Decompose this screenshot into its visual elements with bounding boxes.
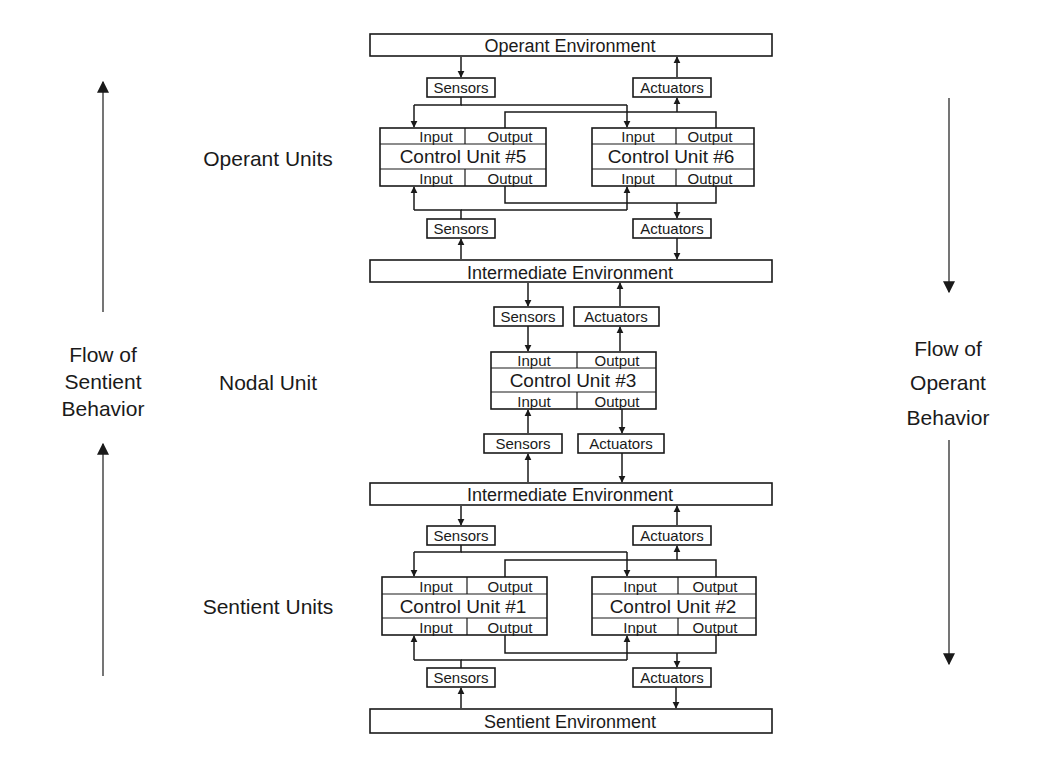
output-port-top: Output	[594, 352, 640, 369]
sentient-flow-indicator: Flow of Sentient Behavior	[62, 82, 145, 676]
actuators-label: Actuators	[640, 669, 703, 686]
output-port-top: Output	[487, 128, 533, 145]
nodal-unit-label: Nodal Unit	[219, 371, 317, 394]
input-port-top: Input	[623, 578, 657, 595]
sentient-units-label: Sentient Units	[203, 595, 334, 618]
control-unit-label: Control Unit #6	[608, 146, 735, 167]
sentient-flow-label-line1: Flow of	[69, 343, 137, 366]
connector-line	[505, 560, 716, 577]
control-unit-label: Control Unit #5	[400, 146, 527, 167]
input-port-bottom: Input	[419, 170, 453, 187]
output-port-bottom: Output	[487, 619, 533, 636]
connector-line	[414, 545, 461, 552]
operant-bottom-actuators: Actuators	[633, 219, 711, 238]
control-unit-label: Control Unit #2	[610, 596, 737, 617]
connector-line	[414, 97, 461, 105]
operant-top-actuators: Actuators	[633, 78, 711, 97]
sentient-top-sensors: Sensors	[427, 526, 495, 545]
nodal-top-actuators: Actuators	[574, 307, 659, 326]
output-port-bottom: Output	[687, 170, 733, 187]
output-port-top: Output	[692, 578, 738, 595]
connector-line	[505, 186, 716, 203]
actuators-label: Actuators	[589, 435, 652, 452]
nodal-bottom-actuators: Actuators	[578, 434, 664, 453]
output-port-top: Output	[687, 128, 733, 145]
operant-environment: Operant Environment	[370, 34, 772, 56]
connector-line	[505, 635, 716, 653]
sentient-environment: Sentient Environment	[370, 709, 772, 733]
operant-flow-indicator: Flow of Operant Behavior	[907, 98, 990, 664]
sentient-flow-label-line3: Behavior	[62, 397, 145, 420]
sentient-bottom-actuators: Actuators	[633, 668, 711, 687]
sensors-label: Sensors	[433, 669, 488, 686]
control-unit-6: Input Output Control Unit #6 Input Outpu…	[592, 128, 754, 187]
actuators-label: Actuators	[640, 79, 703, 96]
connector-line	[505, 112, 716, 128]
connector-line	[414, 210, 461, 219]
output-port-bottom: Output	[487, 170, 533, 187]
actuators-label: Actuators	[584, 308, 647, 325]
sensors-label: Sensors	[433, 527, 488, 544]
input-port-bottom: Input	[623, 619, 657, 636]
actuators-label: Actuators	[640, 527, 703, 544]
connector-line	[414, 660, 461, 668]
control-hierarchy-diagram: Flow of Sentient Behavior Flow of Operan…	[0, 0, 1050, 776]
input-port-top: Input	[621, 128, 655, 145]
sentient-bottom-sensors: Sensors	[427, 668, 495, 687]
actuators-label: Actuators	[640, 220, 703, 237]
control-unit-3: Input Output Control Unit #3 Input Outpu…	[491, 352, 656, 410]
output-port-bottom: Output	[594, 393, 640, 410]
operant-flow-label-line3: Behavior	[907, 406, 990, 429]
operant-bottom-sensors: Sensors	[427, 219, 495, 238]
operant-flow-label-line2: Operant	[910, 371, 986, 394]
sentient-environment-label: Sentient Environment	[484, 712, 656, 732]
nodal-top-sensors: Sensors	[494, 307, 563, 326]
input-port-bottom: Input	[621, 170, 655, 187]
sensors-label: Sensors	[433, 79, 488, 96]
intermediate-environment-upper-label: Intermediate Environment	[467, 263, 673, 283]
output-port-bottom: Output	[692, 619, 738, 636]
intermediate-environment-lower-label: Intermediate Environment	[467, 485, 673, 505]
sensors-label: Sensors	[500, 308, 555, 325]
input-port-top: Input	[517, 352, 551, 369]
operant-flow-label-line1: Flow of	[914, 337, 982, 360]
input-port-top: Input	[419, 578, 453, 595]
operant-units-label: Operant Units	[203, 147, 333, 170]
sensors-label: Sensors	[495, 435, 550, 452]
input-port-bottom: Input	[419, 619, 453, 636]
intermediate-environment-upper: Intermediate Environment	[370, 260, 772, 283]
input-port-bottom: Input	[517, 393, 551, 410]
operant-top-sensors: Sensors	[427, 78, 495, 97]
operant-environment-label: Operant Environment	[484, 36, 655, 56]
nodal-bottom-sensors: Sensors	[484, 434, 562, 453]
sentient-top-actuators: Actuators	[633, 526, 711, 545]
sensors-label: Sensors	[433, 220, 488, 237]
control-unit-label: Control Unit #1	[400, 596, 527, 617]
intermediate-environment-lower: Intermediate Environment	[370, 483, 772, 505]
input-port-top: Input	[419, 128, 453, 145]
control-unit-1: Input Output Control Unit #1 Input Outpu…	[382, 577, 547, 636]
control-unit-5: Input Output Control Unit #5 Input Outpu…	[380, 128, 546, 187]
control-unit-2: Input Output Control Unit #2 Input Outpu…	[592, 577, 756, 636]
sentient-flow-label-line2: Sentient	[64, 370, 141, 393]
control-unit-label: Control Unit #3	[510, 370, 637, 391]
output-port-top: Output	[487, 578, 533, 595]
